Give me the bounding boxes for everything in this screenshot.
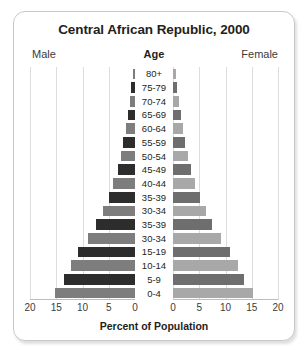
age-label: 0-4: [135, 286, 173, 300]
bar-male-45-49: [118, 164, 135, 175]
xtick-male-10: 10: [77, 302, 88, 313]
pyramid-row: 45-49: [30, 163, 278, 177]
x-axis-label: Percent of Population: [14, 320, 294, 332]
gridline-female-20: [278, 67, 279, 300]
bar-male-15-19: [78, 247, 135, 258]
pyramid-row: 55-59: [30, 136, 278, 150]
age-label: 80+: [135, 67, 173, 81]
xtick-female-20: 20: [272, 302, 283, 313]
xtick-female-0: 0: [170, 302, 176, 313]
page-title: Central African Republic, 2000: [14, 22, 294, 37]
bar-male-0-4: [55, 288, 135, 299]
pyramid-row: 15-19: [30, 245, 278, 259]
bar-male-5-9: [64, 274, 135, 285]
bar-female-75-79: [173, 82, 177, 93]
age-label: 50-54: [135, 149, 173, 163]
age-label: 40-44: [135, 177, 173, 191]
xtick-male-15: 15: [51, 302, 62, 313]
bar-male-30-34: [103, 206, 135, 217]
bar-male-60-64: [126, 123, 135, 134]
age-label: 45-49: [135, 163, 173, 177]
bar-female-15-19: [173, 247, 230, 258]
bar-female-45-49: [173, 164, 191, 175]
age-label: 65-69: [135, 108, 173, 122]
xtick-female-10: 10: [220, 302, 231, 313]
pyramid-row: 40-44: [30, 177, 278, 191]
pyramid-row: 10-14: [30, 259, 278, 273]
pyramid-row: 0-4: [30, 286, 278, 300]
pyramid-row: 70-74: [30, 94, 278, 108]
bar-female-55-59: [173, 137, 185, 148]
bar-male-10-14: [71, 260, 135, 271]
pyramid-row: 60-64: [30, 122, 278, 136]
age-label: 35-39: [135, 190, 173, 204]
bar-female-30-34: [173, 233, 221, 244]
bar-female-0-4: [173, 288, 253, 299]
pyramid-row: 75-79: [30, 81, 278, 95]
pyramid-row: 35-39: [30, 190, 278, 204]
age-label: 70-74: [135, 94, 173, 108]
bar-female-80+: [173, 69, 176, 80]
xtick-female-5: 5: [196, 302, 202, 313]
pyramid-row: 5-9: [30, 273, 278, 287]
bar-female-65-69: [173, 110, 181, 121]
bar-male-50-54: [121, 151, 135, 162]
xtick-female-15: 15: [246, 302, 257, 313]
bar-female-50-54: [173, 151, 188, 162]
pyramid-row: 30-34: [30, 204, 278, 218]
xtick-male-5: 5: [106, 302, 112, 313]
bar-female-35-39: [173, 219, 212, 230]
bar-female-35-39: [173, 192, 200, 203]
bar-male-40-44: [113, 178, 135, 189]
bar-male-65-69: [128, 110, 135, 121]
age-label: 35-39: [135, 218, 173, 232]
bar-male-30-34: [88, 233, 135, 244]
age-label: 5-9: [135, 273, 173, 287]
age-label: 30-34: [135, 204, 173, 218]
pyramid-rows: 80+75-7970-7465-6960-6455-5950-5445-4940…: [30, 67, 278, 300]
age-label: 55-59: [135, 136, 173, 150]
xtick-male-20: 20: [24, 302, 35, 313]
bar-male-35-39: [109, 192, 135, 203]
pyramid-row: 65-69: [30, 108, 278, 122]
pyramid-row: 30-34: [30, 231, 278, 245]
pyramid-row: 50-54: [30, 149, 278, 163]
bar-female-40-44: [173, 178, 195, 189]
pyramid-row: 80+: [30, 67, 278, 81]
bar-female-10-14: [173, 260, 238, 271]
header-female: Female: [241, 48, 278, 60]
x-axis: 2015105005101520: [30, 302, 278, 318]
bar-female-5-9: [173, 274, 244, 285]
bar-male-35-39: [96, 219, 135, 230]
bar-male-55-59: [123, 137, 135, 148]
age-label: 15-19: [135, 245, 173, 259]
xtick-male-0: 0: [132, 302, 138, 313]
pyramid-plot-area: 80+75-7970-7465-6960-6455-5950-5445-4940…: [30, 67, 278, 300]
bar-female-60-64: [173, 123, 183, 134]
bar-female-30-34: [173, 206, 206, 217]
age-label: 10-14: [135, 259, 173, 273]
bar-female-70-74: [173, 96, 179, 107]
pyramid-row: 35-39: [30, 218, 278, 232]
age-label: 30-34: [135, 231, 173, 245]
age-label: 60-64: [135, 122, 173, 136]
age-label: 75-79: [135, 81, 173, 95]
chart-card: Central African Republic, 2000 Male Age …: [13, 11, 295, 341]
